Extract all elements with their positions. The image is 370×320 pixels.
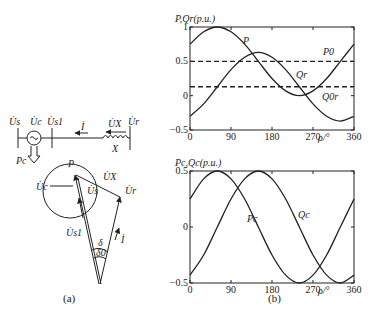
label-phasor-us: U̇s — [87, 185, 98, 196]
y-tick-label: 0 — [183, 90, 188, 101]
x-tick-label: 360 — [347, 131, 362, 142]
label-pc: Pc — [15, 155, 27, 166]
label-x: X — [111, 143, 119, 154]
series-label-p0: P0 — [322, 46, 334, 57]
figure-canvas: U̇s U̇c U̇s1 U̇r İ U̇X X Pc P U̇c U̇s U̇… — [0, 0, 370, 320]
y-tick-label: −0.5 — [170, 277, 188, 288]
phasor-diagram — [43, 164, 120, 284]
label-current: İ — [80, 121, 85, 132]
x-axis-label: ρ/° — [317, 285, 330, 296]
label-phasor-uc: U̇c — [36, 181, 48, 192]
y-tick-label: 0 — [183, 221, 188, 232]
plot-frame — [190, 171, 354, 283]
x-tick-label: 0 — [188, 131, 193, 142]
x-tick-label: 0 — [188, 284, 193, 295]
label-delta0: δ0 — [96, 247, 106, 258]
label-phasor-ux: U̇X — [103, 171, 117, 182]
y-axis-label: Pc,Qc(p.u.) — [174, 157, 222, 169]
series-pc — [190, 171, 354, 283]
x-tick-label: 90 — [226, 131, 236, 142]
series-label-q0r: Q0r — [322, 91, 338, 102]
label-phasor-ur: U̇r — [125, 185, 136, 196]
label-us1: U̇s1 — [47, 116, 63, 127]
label-ur: U̇r — [128, 116, 139, 127]
y-tick-label: 0.5 — [176, 55, 189, 66]
chart-pc-qc: 090180270360−0.500.5Pc,Qc(p.u.)ρ/°PcQc — [170, 157, 362, 296]
label-us: U̇s — [9, 116, 20, 127]
label-phasor-us1: U̇s1 — [66, 227, 82, 238]
series-label-qc: Qc — [298, 209, 310, 220]
label-phasor-i: İ — [120, 234, 125, 245]
series-label-p: P — [242, 35, 249, 46]
label-point-p: P — [67, 158, 74, 169]
y-tick-label: −0.5 — [170, 124, 188, 135]
series-label-pc: Pc — [246, 213, 258, 224]
y-axis-label: P,Qr(p.u.) — [174, 13, 216, 25]
caption-a: (a) — [63, 292, 76, 305]
series-qc — [190, 171, 354, 283]
chart-p-qr: 090180270360−0.500.51P,Qr(p.u.)ρ/°PQrP0Q… — [170, 13, 362, 143]
x-tick-label: 180 — [265, 131, 280, 142]
x-tick-label: 90 — [226, 284, 236, 295]
label-ux: U̇X — [108, 118, 122, 129]
power-arrow-icon — [28, 146, 40, 163]
x-tick-label: 360 — [347, 284, 362, 295]
label-uc: U̇c — [30, 116, 42, 127]
series-label-qr: Qr — [296, 69, 307, 80]
phasor-i — [115, 228, 119, 240]
caption-b: (b) — [268, 292, 281, 305]
reactor-icon — [103, 136, 128, 139]
x-axis-label: ρ/° — [317, 132, 330, 143]
phasor-ur — [100, 197, 120, 284]
